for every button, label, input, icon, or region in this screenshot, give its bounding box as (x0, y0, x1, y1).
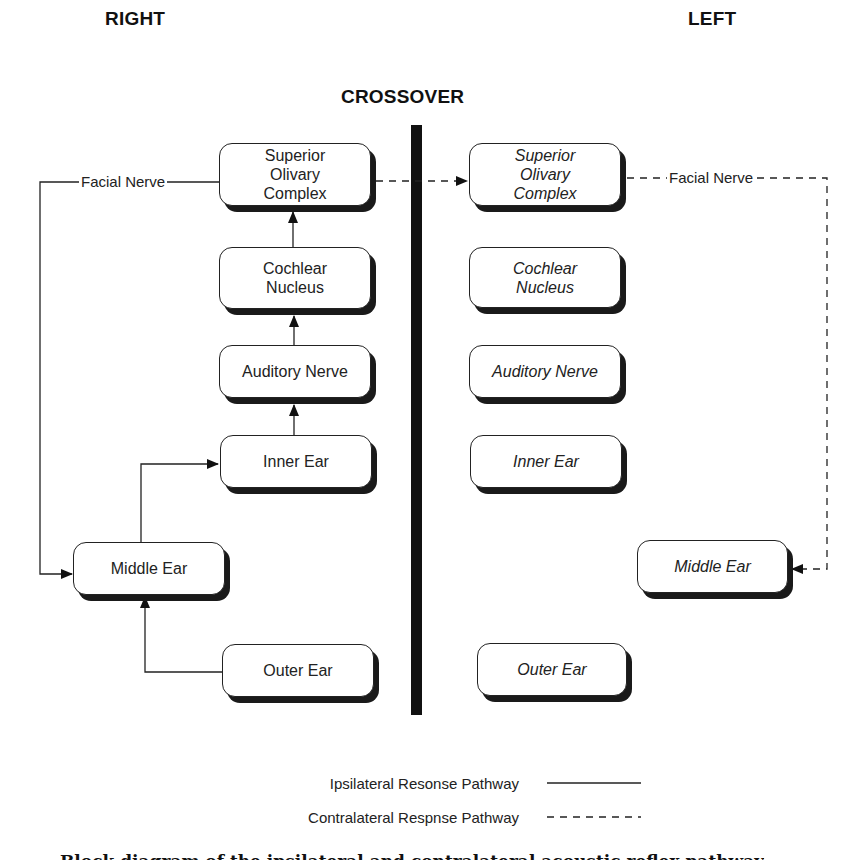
left-cochlear-nucleus-box: Cochlear Nucleus (469, 247, 621, 308)
left-middle-ear-label: Middle Ear (674, 557, 750, 576)
left-inner-ear-box: Inner Ear (470, 435, 622, 488)
right-cochlear-nucleus-box: Cochlear Nucleus (219, 247, 371, 309)
right-inner-ear-label: Inner Ear (263, 452, 329, 471)
left-auditory-nerve-box: Auditory Nerve (469, 345, 621, 398)
left-inner-ear-label: Inner Ear (513, 452, 579, 471)
left-superior-olivary-complex-box: Superior Olivary Complex (469, 143, 621, 206)
facial-nerve-left-path (627, 178, 827, 569)
facial-nerve-label-right: Facial Nerve (79, 173, 167, 191)
middle-to-inner-ear-right (141, 464, 218, 542)
right-superior-olivary-complex-box: Superior Olivary Complex (219, 143, 371, 206)
facial-nerve-label-left: Facial Nerve (667, 169, 755, 187)
left-outer-ear-label: Outer Ear (517, 660, 586, 679)
right-middle-ear-box: Middle Ear (73, 542, 225, 595)
left-auditory-nerve-label: Auditory Nerve (492, 362, 598, 381)
facial-nerve-right-path (40, 182, 219, 574)
right-cochlear-nucleus-label: Cochlear Nucleus (263, 259, 327, 297)
pathway-connectors (0, 0, 864, 867)
left-superior-olivary-complex-label: Superior Olivary Complex (513, 146, 576, 203)
legend-contralateral-label: Contralateral Respnse Pathway (189, 809, 519, 826)
right-outer-ear-label: Outer Ear (263, 661, 332, 680)
legend-line-samples (545, 775, 645, 825)
right-middle-ear-label: Middle Ear (111, 559, 187, 578)
right-auditory-nerve-box: Auditory Nerve (219, 345, 371, 398)
right-superior-olivary-complex-label: Superior Olivary Complex (263, 146, 326, 203)
left-outer-ear-box: Outer Ear (477, 643, 627, 696)
legend-ipsilateral-label: Ipsilateral Resonse Pathway (189, 775, 519, 792)
outer-to-middle-ear-right (145, 597, 222, 672)
right-auditory-nerve-label: Auditory Nerve (242, 362, 348, 381)
left-cochlear-nucleus-label: Cochlear Nucleus (513, 259, 577, 297)
right-inner-ear-box: Inner Ear (220, 435, 372, 488)
left-middle-ear-box: Middle Ear (637, 540, 788, 593)
right-outer-ear-box: Outer Ear (222, 644, 374, 697)
